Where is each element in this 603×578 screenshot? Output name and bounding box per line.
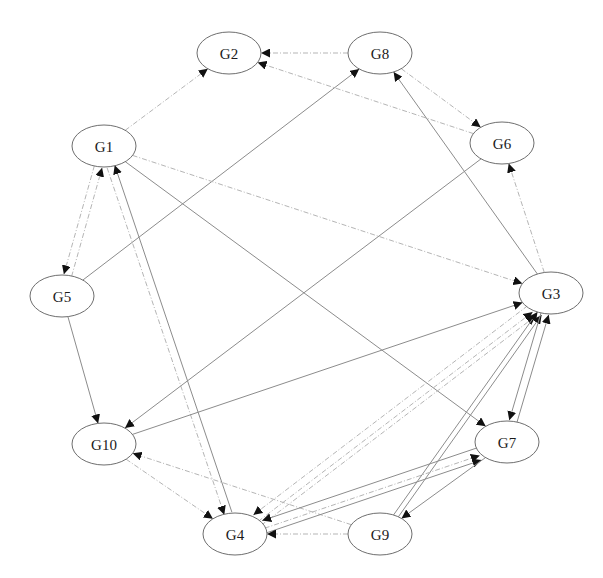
- edge-g3-to-g8: [394, 72, 538, 274]
- edge-g1-to-g3: [133, 155, 523, 283]
- node-label: G10: [91, 437, 117, 453]
- node-g7[interactable]: G7: [475, 421, 539, 463]
- edge-g10-to-g4: [126, 459, 213, 519]
- edge-g4-to-g1: [115, 165, 232, 512]
- directed-graph: G1G2G3G4G5G6G7G8G9G10: [0, 0, 603, 578]
- node-label: G4: [226, 527, 245, 543]
- edge-g6-to-g10: [125, 159, 481, 428]
- edge-g7-to-g3: [517, 315, 549, 423]
- edge-g5-to-g1: [72, 168, 103, 277]
- edge-g3-to-g6: [509, 164, 545, 273]
- edge-g3-to-g4: [253, 306, 527, 515]
- node-label: G2: [220, 46, 238, 62]
- nodes-layer: G1G2G3G4G5G6G7G8G9G10: [30, 32, 583, 555]
- node-label: G9: [371, 527, 389, 543]
- edge-g5-to-g8: [83, 69, 359, 280]
- node-g10[interactable]: G10: [72, 423, 136, 465]
- edge-g9-to-g3: [394, 312, 538, 515]
- node-g3[interactable]: G3: [519, 272, 583, 314]
- edges-layer: [64, 53, 549, 534]
- edge-g5-to-g10: [68, 317, 98, 424]
- node-label: G6: [493, 136, 512, 152]
- edge-g10-to-g3: [133, 303, 523, 435]
- edge-g1-to-g2: [125, 69, 208, 131]
- node-label: G1: [95, 139, 113, 155]
- node-label: G8: [371, 46, 389, 62]
- edge-g4-to-g3: [261, 316, 535, 525]
- node-label: G7: [498, 435, 517, 451]
- node-g6[interactable]: G6: [470, 122, 534, 164]
- node-g4[interactable]: G4: [203, 513, 267, 555]
- edge-g4-to-g3: [258, 312, 532, 521]
- node-g5[interactable]: G5: [30, 275, 94, 317]
- edge-g7-to-g9: [402, 458, 486, 519]
- node-g1[interactable]: G1: [72, 125, 136, 167]
- edge-g1-to-g4: [107, 168, 224, 515]
- node-label: G3: [542, 286, 560, 302]
- edge-g1-to-g5: [64, 166, 95, 275]
- node-g9[interactable]: G9: [348, 513, 412, 555]
- node-label: G5: [53, 289, 71, 305]
- node-g8[interactable]: G8: [348, 32, 412, 74]
- edge-g6-to-g2: [258, 62, 474, 133]
- edge-g8-to-g6: [401, 69, 480, 128]
- edge-g9-to-g3: [398, 315, 542, 518]
- node-g2[interactable]: G2: [197, 32, 261, 74]
